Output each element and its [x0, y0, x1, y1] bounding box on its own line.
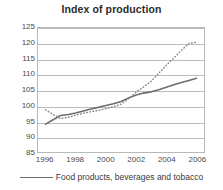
- plot-area: [37, 27, 205, 153]
- y-axis-tick-label: 120: [2, 39, 35, 47]
- x-axis-tick-label: 1996: [36, 156, 54, 164]
- y-axis-tick-label: 90: [2, 133, 35, 141]
- y-axis-tick-label: 100: [2, 102, 35, 110]
- y-axis-tick-label: 125: [2, 23, 35, 31]
- y-axis-tick-labels: 859095100105110115120125: [0, 27, 35, 153]
- x-axis-tick-labels: 199619982000200220042006: [37, 156, 205, 168]
- x-axis-tick-label: 2004: [158, 156, 176, 164]
- x-axis-tick-label: 2000: [97, 156, 115, 164]
- y-axis-tick-label: 115: [2, 55, 35, 63]
- series-layer: [38, 28, 204, 152]
- legend-item: Food products, beverages and tobacco: [20, 172, 203, 182]
- y-axis-tick-label: 85: [2, 149, 35, 157]
- legend-line-swatch: [20, 177, 53, 178]
- series-line-2: [46, 42, 197, 118]
- y-axis-tick-label: 110: [2, 70, 35, 78]
- legend-item-label: Food products, beverages and tobacco: [56, 172, 203, 182]
- x-axis-tick-label: 2006: [188, 156, 206, 164]
- chart-legend: Food products, beverages and tobacco: [0, 172, 223, 182]
- index-of-production-chart: Index of production 85909510010511011512…: [0, 0, 223, 190]
- y-axis-tick-label: 105: [2, 86, 35, 94]
- x-axis-tick-label: 2002: [127, 156, 145, 164]
- y-axis-tick-label: 95: [2, 118, 35, 126]
- x-axis-tick-label: 1998: [66, 156, 84, 164]
- chart-title: Index of production: [0, 3, 223, 15]
